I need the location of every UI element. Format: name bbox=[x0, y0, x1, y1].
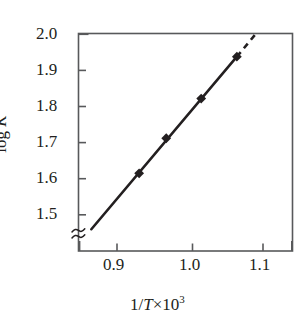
y-axis-title-prefix: log bbox=[0, 127, 10, 153]
x-tick-label-1-0: 1.0 bbox=[179, 256, 200, 273]
plot-frame bbox=[79, 34, 293, 252]
x-axis-title-symbol: T bbox=[143, 295, 152, 314]
y-tick-label-1-6: 1.6 bbox=[36, 169, 57, 186]
fit-line bbox=[91, 57, 237, 230]
x-axis-title-prefix: 1/ bbox=[130, 295, 143, 314]
x-axis-title: 1/T×103 bbox=[130, 294, 185, 313]
y-axis-ticks bbox=[79, 34, 89, 215]
chart-figure: 2.0 1.9 1.8 1.7 1.6 1.5 0.9 1.0 1.1 log … bbox=[0, 0, 307, 328]
x-axis-ticks bbox=[80, 241, 292, 251]
y-axis-title-symbol: K bbox=[0, 115, 10, 126]
x-axis-title-exponent: 3 bbox=[179, 293, 185, 305]
y-tick-label-1-5: 1.5 bbox=[36, 205, 57, 222]
extrapolation-line bbox=[237, 34, 256, 56]
y-tick-label-1-8: 1.8 bbox=[36, 97, 57, 114]
y-tick-label-2-0: 2.0 bbox=[36, 25, 57, 42]
x-tick-label-0-9: 0.9 bbox=[103, 256, 124, 273]
y-axis-title: log K bbox=[0, 114, 52, 154]
x-tick-label-1-1: 1.1 bbox=[249, 256, 270, 273]
y-tick-label-1-9: 1.9 bbox=[36, 61, 57, 78]
plot-canvas bbox=[0, 0, 307, 328]
x-axis-title-times: ×10 bbox=[153, 295, 180, 314]
